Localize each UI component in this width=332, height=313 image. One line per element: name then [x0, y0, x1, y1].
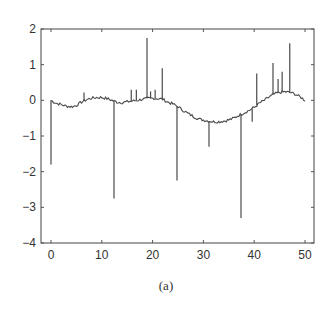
x-axis-ticks: 01020304050: [48, 29, 312, 262]
y-tick-label: 1: [29, 58, 36, 72]
y-tick-label: −4: [22, 236, 36, 250]
figure-caption: (a): [0, 278, 332, 294]
x-tick-label: 10: [95, 248, 109, 262]
chart-plot: 01020304050 210−1−2−3−4: [0, 0, 332, 313]
y-tick-label: −2: [22, 165, 36, 179]
data-series: [51, 38, 305, 218]
x-tick-label: 40: [248, 248, 262, 262]
x-tick-label: 50: [298, 248, 312, 262]
y-tick-label: 2: [29, 22, 36, 36]
x-tick-label: 30: [197, 248, 211, 262]
x-tick-label: 0: [48, 248, 55, 262]
y-tick-label: −1: [22, 129, 36, 143]
signal-line: [51, 91, 305, 123]
y-axis-ticks: 210−1−2−3−4: [22, 22, 314, 250]
y-tick-label: 0: [29, 93, 36, 107]
y-tick-label: −3: [22, 200, 36, 214]
x-tick-label: 20: [146, 248, 160, 262]
